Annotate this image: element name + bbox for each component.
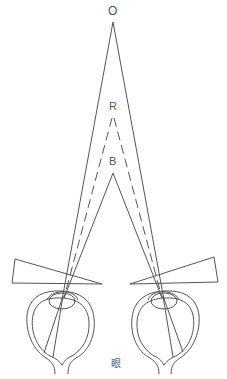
ray-r-right xyxy=(114,118,162,298)
ray-r-left xyxy=(64,118,112,298)
red-image-point-label: R xyxy=(109,101,117,112)
right-eye-ray-1 xyxy=(163,296,173,357)
left-eye-ray-1 xyxy=(44,296,63,353)
ray-b-right xyxy=(113,173,162,298)
blue-image-point-label: B xyxy=(109,156,116,167)
ray-o-left xyxy=(62,22,113,300)
left-eye-ray-2 xyxy=(53,296,63,357)
ray-b-left xyxy=(64,173,113,298)
ray-o-right xyxy=(113,22,164,300)
eye-caption: 眼 xyxy=(111,359,121,369)
diagram-canvas xyxy=(0,0,227,379)
right-eye xyxy=(132,291,200,374)
left-eye xyxy=(27,291,95,374)
right-prism xyxy=(130,257,218,284)
object-point-label: O xyxy=(108,5,117,17)
left-prism xyxy=(12,259,102,284)
right-eye-ray-2 xyxy=(163,296,183,352)
